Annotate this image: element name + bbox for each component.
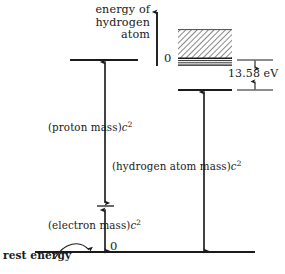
hydrogen-mass-energy-label: (hydrogen atom mass)c2 <box>112 161 241 173</box>
electron-mass-energy-label: (electron mass)c2 <box>48 220 141 232</box>
continuum-hatched-band <box>178 30 232 58</box>
electron-mass-text: (electron mass) <box>48 219 130 231</box>
hydrogen-c-exponent: 2 <box>237 159 242 168</box>
axis-title-line-3: atom <box>60 29 150 42</box>
electron-c-exponent: 2 <box>136 218 141 227</box>
zero-label-continuum: 0 <box>164 52 171 65</box>
rest-energy-label: rest energy <box>3 250 71 262</box>
proton-mass-text: (proton mass) <box>48 121 122 133</box>
axis-title: energy of hydrogen atom <box>60 4 150 42</box>
energy-level-diagram: energy of hydrogen atom 0 13.58 eV (prot… <box>0 0 285 274</box>
proton-c-exponent: 2 <box>128 120 133 129</box>
bound-state-level-lines <box>178 58 232 65</box>
proton-mass-energy-label: (proton mass)c2 <box>48 122 132 134</box>
ionization-energy-label: 13.58 eV <box>228 68 278 80</box>
hydrogen-mass-text: (hydrogen atom mass) <box>112 160 231 172</box>
zero-label-baseline: 0 <box>110 240 117 253</box>
axis-title-line-1: energy of <box>60 4 150 17</box>
